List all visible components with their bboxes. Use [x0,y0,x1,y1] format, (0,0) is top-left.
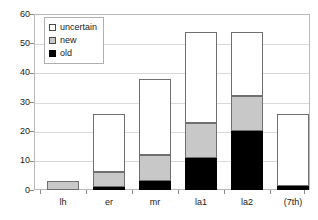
bar-chart: 60 50 40 30 20 10 0 [0,0,318,220]
x-tick-label-mr: mr [150,197,161,207]
x-tick-mark [270,190,271,194]
legend-swatch-new-icon [49,37,56,44]
x-tick-mark [178,190,179,194]
legend-swatch-old-icon [49,50,56,57]
chart-legend: uncertain new old [44,17,104,64]
legend-item-new: new [49,34,97,47]
y-axis: 60 50 40 30 20 10 0 [0,0,34,220]
legend-label-uncertain: uncertain [60,22,97,33]
bar-segment-new [47,181,79,190]
x-tick-label-7th: (7th) [284,197,303,207]
legend-label-old: old [60,48,72,59]
x-tick-label-er: er [105,197,113,207]
y-tick-label: 20 [2,126,30,136]
legend-label-new: new [60,35,77,46]
x-tick-mark [40,190,41,194]
bar-segment-new [93,172,125,187]
bar-segment-old [231,131,263,190]
bar-segment-uncertain [185,32,217,123]
legend-item-uncertain: uncertain [49,21,97,34]
legend-swatch-uncertain-icon [49,24,56,31]
bar-segment-uncertain [93,114,125,173]
bar-lh [47,181,79,190]
x-tick-mark [304,190,305,194]
x-tick-label-la2: la2 [241,197,253,207]
x-tick-mark [132,190,133,194]
bar-la2 [231,32,263,190]
y-tick-label: 0 [2,185,30,195]
x-tick-mark [86,190,87,194]
x-axis: lh er mr la1 la2 (7th) [34,190,310,220]
bar-er [93,114,125,190]
bar-segment-new [139,155,171,181]
bar-segment-new [185,123,217,158]
y-tick-label: 10 [2,155,30,165]
y-tick-label: 60 [2,9,30,19]
y-tick-label: 50 [2,38,30,48]
y-tick-label: 40 [2,67,30,77]
bar-mr [139,79,171,191]
x-tick-label-la1: la1 [195,197,207,207]
x-tick-label-lh: lh [59,197,66,207]
bar-la1 [185,32,217,190]
bar-segment-uncertain [139,79,171,155]
bar-7th [277,114,309,190]
x-tick-mark [224,190,225,194]
bar-segment-uncertain [231,32,263,97]
legend-item-old: old [49,47,97,60]
bar-segment-new [231,96,263,131]
bar-segment-old [185,158,217,190]
y-tick-label: 30 [2,97,30,107]
bar-segment-uncertain [277,114,309,186]
bar-segment-old [139,181,171,190]
